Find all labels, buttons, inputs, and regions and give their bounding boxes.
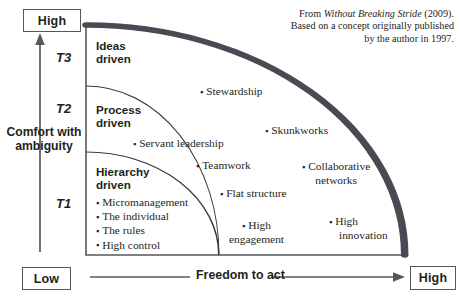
list-item: ▪Micromanagement xyxy=(96,196,188,210)
point-flat-structure-label: Flat structure xyxy=(226,187,286,199)
list-item: ▪The individual xyxy=(96,210,188,224)
y-axis-high-label: High xyxy=(23,9,81,32)
band-heading-hierarchy-line1: Hierarchy xyxy=(96,166,150,179)
list-item: ▪High control xyxy=(96,239,188,253)
bullet-icon: ▪ xyxy=(96,198,99,208)
point-flat-structure: ▪Flat structure xyxy=(220,187,287,201)
attribution-line-1: From Without Breaking Stride (2009). xyxy=(238,8,454,20)
point-stewardship: ▪Stewardship xyxy=(200,85,263,99)
bullet-icon: ▪ xyxy=(302,162,305,172)
point-high-innovation-label: High xyxy=(335,215,358,227)
bullet-icon: ▪ xyxy=(329,217,332,227)
point-servant-leadership: ▪Servant leadership xyxy=(133,137,224,151)
bullet-icon: ▪ xyxy=(96,240,99,250)
bullet-icon: ▪ xyxy=(96,212,99,222)
attribution-line-3: by the author in 1997. xyxy=(238,33,454,45)
x-axis-high-label: High xyxy=(410,266,456,290)
list-item-label: The individual xyxy=(102,210,169,222)
point-skunkworks-label: Skunkworks xyxy=(271,124,328,136)
point-servant-leadership-label: Servant leadership xyxy=(139,137,223,149)
bullet-icon: ▪ xyxy=(265,126,268,136)
band-heading-hierarchy: Hierarchy driven xyxy=(96,166,150,191)
list-item-label: High control xyxy=(102,239,160,251)
point-skunkworks: ▪Skunkworks xyxy=(265,124,328,138)
diagram-canvas: High Low High Comfort with ambiguity Fre… xyxy=(0,0,460,304)
bullet-icon: ▪ xyxy=(96,226,99,236)
bullet-icon: ▪ xyxy=(200,87,203,97)
band-heading-process: Process driven xyxy=(96,104,141,129)
point-high-engagement-label2: engagement xyxy=(229,233,284,246)
x-axis-caption: Freedom to act xyxy=(196,268,285,282)
bullet-icon: ▪ xyxy=(220,189,223,199)
point-high-engagement: ▪High engagement xyxy=(229,219,284,246)
tier-label-t1: T1 xyxy=(56,196,71,211)
band-heading-ideas: Ideas driven xyxy=(96,40,131,65)
bullet-icon: ▪ xyxy=(196,161,199,171)
attribution-suffix: (2009). xyxy=(422,8,454,19)
bullet-icon: ▪ xyxy=(133,139,136,149)
point-teamwork: ▪Teamwork xyxy=(196,159,251,173)
point-stewardship-label: Stewardship xyxy=(206,85,262,97)
point-high-innovation: ▪High innovation xyxy=(329,215,388,242)
band-heading-hierarchy-line2: driven xyxy=(96,179,150,192)
point-collaborative-networks: ▪Collaborative networks xyxy=(302,160,370,187)
band-heading-ideas-line2: driven xyxy=(96,53,131,66)
list-item-label: Micromanagement xyxy=(102,196,188,208)
tier-label-t3: T3 xyxy=(56,50,71,65)
tier1-item-list: ▪Micromanagement ▪The individual ▪The ru… xyxy=(96,196,188,253)
list-item-label: The rules xyxy=(102,224,145,236)
y-axis-caption: Comfort with ambiguity xyxy=(0,126,88,153)
point-teamwork-label: Teamwork xyxy=(202,159,251,171)
bullet-icon: ▪ xyxy=(242,221,245,231)
y-axis-low-label: Low xyxy=(22,267,71,290)
tier-label-t2: T2 xyxy=(56,101,71,116)
attribution-note: From Without Breaking Stride (2009). Bas… xyxy=(238,8,454,45)
point-collaborative-networks-label: Collaborative xyxy=(308,160,370,172)
attribution-book-title: Without Breaking Stride xyxy=(324,8,422,19)
point-high-innovation-label2: innovation xyxy=(329,229,388,242)
point-collaborative-networks-label2: networks xyxy=(302,174,370,187)
band-heading-process-line1: Process xyxy=(96,104,141,117)
attribution-line-2: Based on a concept originally published xyxy=(238,20,454,32)
band-heading-ideas-line1: Ideas xyxy=(96,40,131,53)
band-heading-process-line2: driven xyxy=(96,117,141,130)
list-item: ▪The rules xyxy=(96,224,188,238)
point-high-engagement-label: High xyxy=(248,219,271,231)
attribution-prefix: From xyxy=(299,8,324,19)
